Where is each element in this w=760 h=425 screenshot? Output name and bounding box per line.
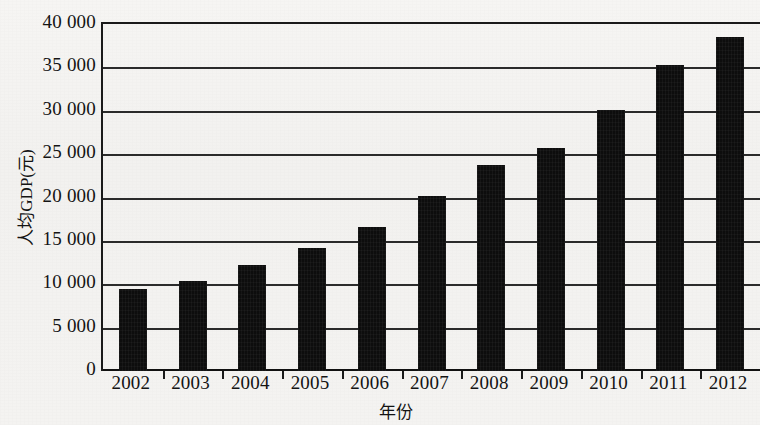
x-axis-tick-label: 2011: [638, 372, 698, 394]
y-axis-tick-label: 35 000: [4, 55, 96, 74]
x-axis-tick-label: 2009: [519, 372, 579, 394]
plot-area: [101, 22, 760, 371]
bar: [298, 248, 326, 371]
y-axis-tick-label: 0: [4, 359, 96, 378]
x-axis-tick-label: 2008: [459, 372, 519, 394]
x-axis-tick-label: 2006: [340, 372, 400, 394]
y-axis-tick-labels: 05 00010 00015 00020 00025 00030 00035 0…: [0, 0, 96, 425]
x-axis-tick-label: 2002: [101, 372, 161, 394]
bar: [477, 165, 505, 371]
x-axis-tick-label: 2010: [579, 372, 639, 394]
x-axis-tick-label: 2012: [698, 372, 758, 394]
x-axis-tick-label: 2007: [400, 372, 460, 394]
bar: [358, 227, 386, 371]
bar: [238, 265, 266, 371]
x-axis-tick-labels: 2002200320042005200620072008200920102011…: [101, 372, 758, 398]
x-axis-tick-label: 2004: [220, 372, 280, 394]
bar: [418, 196, 446, 371]
bar: [597, 110, 625, 371]
x-axis-tick-label: 2005: [280, 372, 340, 394]
bar: [119, 289, 147, 371]
bar: [537, 148, 565, 371]
bar: [656, 65, 684, 371]
x-axis-tick-label: 2003: [161, 372, 221, 394]
chart-figure: 人均GDP(元) 05 00010 00015 00020 00025 0003…: [0, 0, 760, 425]
x-axis-title: 年份: [101, 398, 691, 423]
y-axis-tick-label: 40 000: [4, 12, 96, 31]
y-axis-tick-label: 5 000: [4, 316, 96, 335]
y-axis-tick-label: 10 000: [4, 272, 96, 291]
plot-inner: [103, 24, 760, 371]
y-axis-tick-label: 30 000: [4, 99, 96, 118]
bar: [179, 281, 207, 371]
y-axis-tick-label: 25 000: [4, 142, 96, 161]
bar: [716, 37, 744, 371]
y-axis-tick-label: 15 000: [4, 229, 96, 248]
y-axis-tick-label: 20 000: [4, 186, 96, 205]
